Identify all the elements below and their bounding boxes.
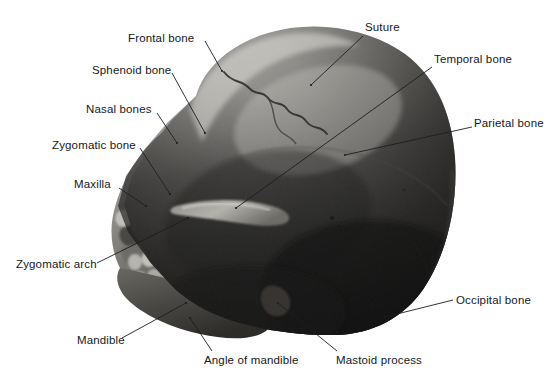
label-mastoid-process: Mastoid process bbox=[336, 354, 422, 366]
leader-zygomatic-arch-tip bbox=[187, 217, 189, 219]
label-mandible: Mandible bbox=[77, 334, 125, 346]
label-suture: Suture bbox=[365, 21, 400, 33]
label-frontal-bone: Frontal bone bbox=[128, 32, 194, 44]
leader-mandible-tip bbox=[185, 302, 187, 304]
label-maxilla: Maxilla bbox=[74, 178, 111, 190]
skull-anatomy-figure: Frontal boneSutureTemporal boneSphenoid … bbox=[0, 0, 554, 390]
label-angle-of-mandible: Angle of mandible bbox=[204, 354, 299, 366]
leader-angle-of-mandible-tip bbox=[189, 317, 191, 319]
leader-occipital-bone-tip bbox=[384, 316, 386, 318]
label-parietal-bone: Parietal bone bbox=[474, 117, 544, 129]
leader-temporal-bone-tip bbox=[235, 207, 237, 209]
label-sphenoid-bone: Sphenoid bone bbox=[92, 64, 171, 76]
leader-zygomatic-bone-tip bbox=[169, 193, 171, 195]
leader-sphenoid-bone-tip bbox=[204, 132, 206, 134]
label-nasal-bones: Nasal bones bbox=[86, 103, 152, 115]
label-zygomatic-bone: Zygomatic bone bbox=[52, 139, 136, 151]
leader-maxilla-tip bbox=[145, 205, 147, 207]
leader-parietal-bone-tip bbox=[344, 154, 346, 156]
leader-frontal-bone-tip bbox=[221, 70, 223, 72]
label-zygomatic-arch: Zygomatic arch bbox=[16, 258, 97, 270]
label-temporal-bone: Temporal bone bbox=[434, 53, 512, 65]
leader-mastoid-process-tip bbox=[277, 302, 279, 304]
label-occipital-bone: Occipital bone bbox=[456, 294, 531, 306]
leader-nasal-bones-tip bbox=[176, 142, 178, 144]
leader-suture-tip bbox=[310, 84, 312, 86]
